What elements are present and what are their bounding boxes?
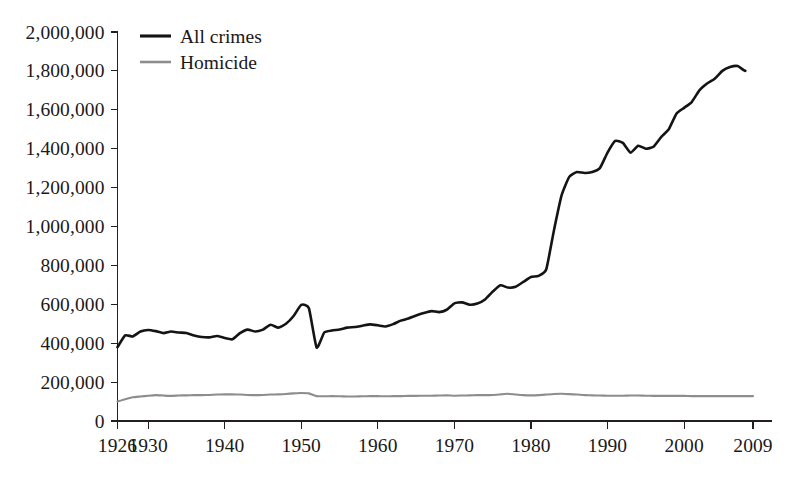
y-tick-label: 800,000 <box>40 255 104 276</box>
legend-label-homicide: Homicide <box>180 52 257 73</box>
y-tick-label: 1,400,000 <box>26 138 105 159</box>
chart-legend: All crimes Homicide <box>140 26 262 73</box>
x-tick-label: 2009 <box>733 435 772 456</box>
y-tick-label: 1,000,000 <box>26 216 105 237</box>
y-tick-label: 2,000,000 <box>26 22 105 43</box>
y-axis-ticks <box>111 32 118 421</box>
x-tick-label: 1980 <box>511 435 550 456</box>
x-tick-label: 1950 <box>282 435 321 456</box>
y-tick-label: 1,200,000 <box>26 177 105 198</box>
series-line-homicide <box>118 393 754 402</box>
x-tick-label: 2000 <box>664 435 703 456</box>
y-tick-label: 200,000 <box>40 372 104 393</box>
x-axis-ticks <box>118 421 754 429</box>
y-tick-label: 0 <box>95 411 105 432</box>
series-line-all-crimes <box>118 66 746 348</box>
y-tick-label: 1,800,000 <box>26 60 105 81</box>
x-tick-label: 1940 <box>205 435 244 456</box>
crime-statistics-line-chart: 0200,000400,000600,000800,0001,000,0001,… <box>0 0 793 486</box>
chart-canvas: 0200,000400,000600,000800,0001,000,0001,… <box>0 0 793 486</box>
x-axis-tick-labels: 1926193019401950196019701980199020002009 <box>98 435 773 456</box>
x-tick-label: 1960 <box>358 435 397 456</box>
y-tick-label: 400,000 <box>40 333 104 354</box>
y-tick-label: 600,000 <box>40 294 104 315</box>
x-tick-label: 1930 <box>128 435 167 456</box>
y-axis-tick-labels: 0200,000400,000600,000800,0001,000,0001,… <box>26 22 105 432</box>
x-tick-label: 1990 <box>588 435 627 456</box>
y-tick-label: 1,600,000 <box>26 99 105 120</box>
x-tick-label: 1970 <box>435 435 474 456</box>
legend-label-all-crimes: All crimes <box>180 26 262 47</box>
